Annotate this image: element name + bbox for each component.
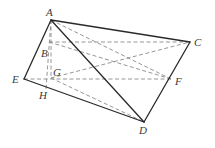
solid-edges	[24, 20, 190, 122]
edge-GC	[51, 42, 190, 78]
label-E: E	[11, 73, 19, 85]
edge-CD	[144, 42, 190, 122]
label-F: F	[174, 75, 182, 87]
label-A: A	[45, 6, 53, 18]
label-H: H	[38, 89, 48, 101]
label-C: C	[194, 36, 202, 48]
label-B: B	[41, 47, 48, 59]
geometry-diagram: A B C E G H F D	[0, 0, 215, 148]
edge-GD	[51, 78, 144, 122]
edge-AC	[51, 20, 190, 42]
label-G: G	[53, 66, 61, 78]
label-D: D	[138, 124, 147, 136]
dashed-edges	[24, 20, 190, 122]
edge-AD	[51, 20, 144, 122]
